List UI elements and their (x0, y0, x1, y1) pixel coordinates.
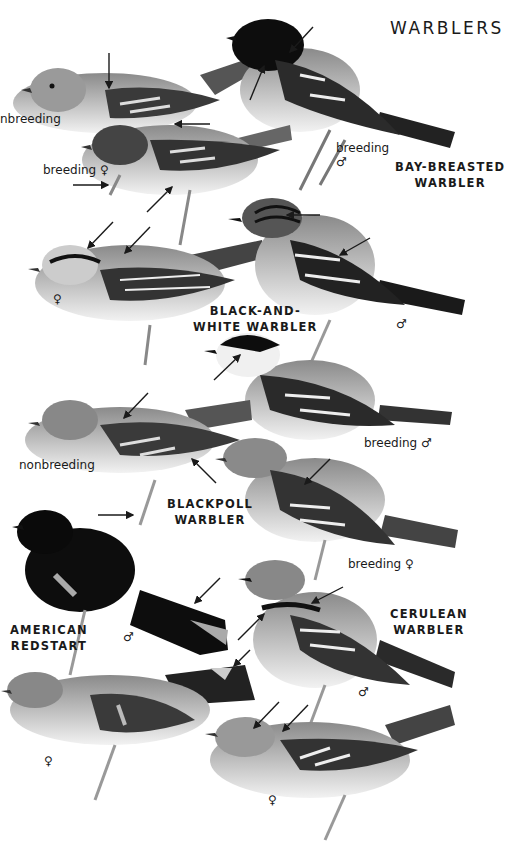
species-name-line2: REDSTART (10, 638, 88, 654)
species-name-line1: BAY-BREASTED (395, 159, 505, 175)
bird-illustrations (0, 0, 514, 862)
species-name-american-redstart: AMERICAN REDSTART (10, 622, 88, 654)
species-name-cerulean: CERULEAN WARBLER (390, 606, 468, 638)
label-bay-breasted-nonbreeding: nbreeding (0, 112, 61, 126)
label-cerulean-female: ♀ (268, 793, 277, 807)
species-name-line1: CERULEAN (390, 606, 468, 622)
label-blackpoll-breeding-female: breeding ♀ (348, 557, 414, 571)
label-black-and-white-female: ♀ (53, 292, 62, 306)
label-american-redstart-male: ♂ (123, 630, 134, 644)
species-name-line1: BLACKPOLL (167, 496, 253, 512)
label-blackpoll-breeding-male: breeding ♂ (364, 436, 432, 450)
label-american-redstart-female: ♀ (44, 754, 53, 768)
species-name-line1: BLACK-AND- (193, 303, 318, 319)
species-name-line2: WARBLER (167, 512, 253, 528)
bird-cerulean-male (238, 560, 455, 725)
page-title: WARBLERS (390, 18, 504, 38)
species-name-bay-breasted: BAY-BREASTED WARBLER (395, 159, 505, 191)
label-bay-breasted-breeding-female: breeding ♀ (43, 163, 109, 177)
species-name-line2: WARBLER (390, 622, 468, 638)
label-bay-breasted-breeding-male: breeding (336, 141, 389, 155)
species-name-blackpoll: BLACKPOLL WARBLER (167, 496, 253, 528)
label-black-and-white-male: ♂ (396, 317, 407, 331)
bird-cerulean-female (205, 705, 455, 840)
bird-blackpoll-breeding-male (204, 333, 452, 440)
male-symbol: ♂ (336, 155, 347, 169)
species-name-line2: WARBLER (395, 175, 505, 191)
label-blackpoll-nonbreeding: nonbreeding (19, 458, 95, 472)
field-guide-plate: WARBLERS BAY-BREASTED WARBLER BLACK-AND-… (0, 0, 514, 862)
species-name-line2: WHITE WARBLER (193, 319, 318, 335)
species-name-line1: AMERICAN (10, 622, 88, 638)
label-cerulean-male: ♂ (358, 685, 369, 699)
species-name-black-and-white: BLACK-AND- WHITE WARBLER (193, 303, 318, 335)
